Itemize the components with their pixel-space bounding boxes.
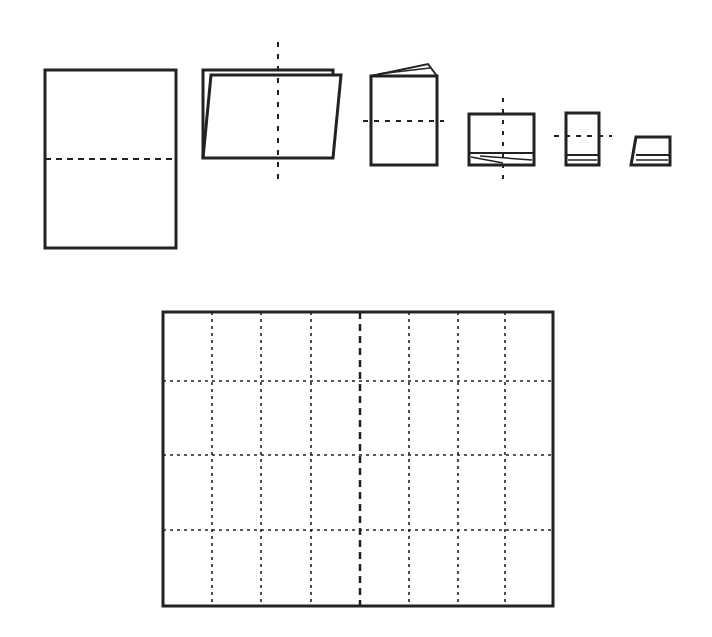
step-3-quarter-fold	[363, 64, 444, 165]
step-4-eighth-fold	[469, 98, 534, 180]
folding-diagram	[0, 0, 712, 637]
step-2-half-fold	[203, 42, 341, 180]
step-1-full-sheet	[45, 70, 176, 248]
step-5-sixteenth-fold	[554, 113, 612, 165]
unfolded-sheet-grid	[163, 312, 553, 606]
step-6-final-packet	[631, 137, 670, 165]
